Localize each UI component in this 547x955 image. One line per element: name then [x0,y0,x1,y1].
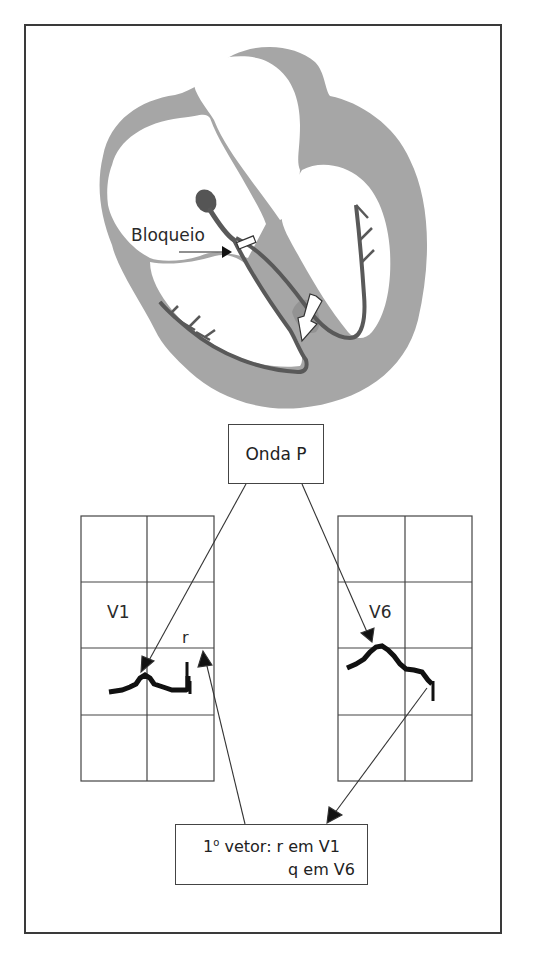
vector-line-1-text: vetor: r em V1 [219,837,340,856]
ecg-trace-v6 [347,646,432,684]
arrow-vetor-to-v1 [206,662,245,824]
ecg-grid-v1 [81,516,214,781]
arrow-v6-to-vetor [334,688,427,814]
first-vector-box: 1o vetor: r em V1 q em V6 [175,824,368,885]
arrow-onda-to-v6 [302,484,367,632]
onda-p-box: Onda P [228,424,324,484]
connector-arrows [141,484,427,824]
r-wave-label: r [182,628,189,647]
ecg-trace-v1 [109,675,191,692]
lead-label-v6: V6 [369,602,391,622]
onda-p-label: Onda P [245,444,306,464]
block-label: Bloqueio [131,225,205,245]
lead-label-v1: V1 [107,602,129,622]
vector-line-1: 1o vetor: r em V1 [188,831,355,858]
ecg-grid-v6 [338,516,472,781]
arrow-onda-to-v1 [147,484,246,664]
vector-line-2: q em V6 [188,858,355,881]
vector-ordinal-number: 1 [203,837,213,856]
